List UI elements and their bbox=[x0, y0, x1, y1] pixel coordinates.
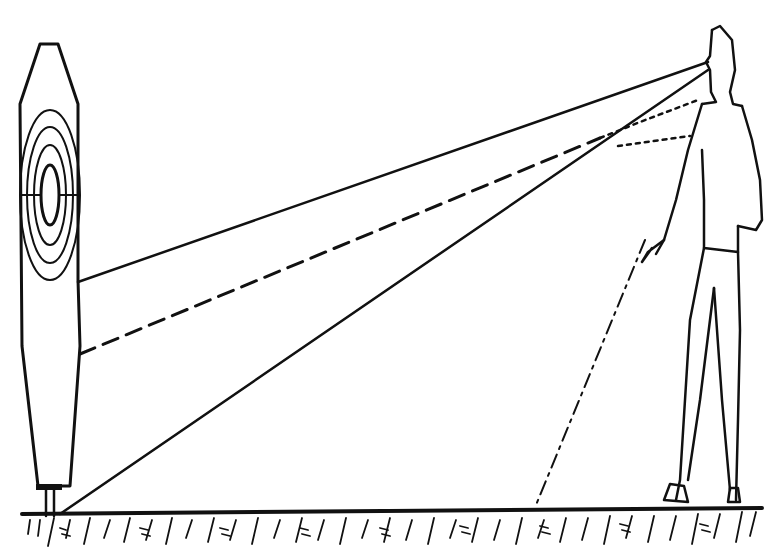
shooting-diagram bbox=[0, 0, 783, 560]
base-sight-line bbox=[60, 70, 708, 514]
ground bbox=[22, 508, 762, 546]
pistol-down-line bbox=[536, 240, 645, 505]
sight-lines bbox=[60, 62, 708, 514]
arm-dotted-lower bbox=[618, 136, 690, 146]
target-rings bbox=[20, 110, 80, 280]
arm-dotted-upper bbox=[600, 100, 698, 138]
upper-sight-line bbox=[78, 62, 708, 282]
diagram-canvas bbox=[0, 0, 783, 560]
shooter-figure bbox=[642, 26, 762, 502]
